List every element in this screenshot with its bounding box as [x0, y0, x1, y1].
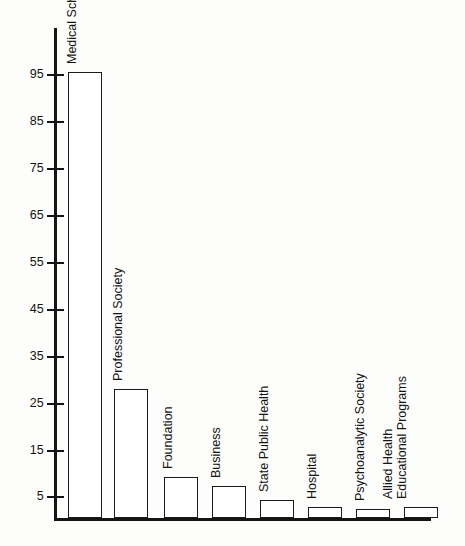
bar-group-hospital: Hospital: [308, 28, 342, 518]
plot-area: Medical School Professional Society Foun…: [54, 28, 431, 521]
bar-label-foundation: Foundation: [162, 406, 175, 469]
bar-label-psychoanalytic-society: Psychoanalytic Society: [354, 373, 367, 501]
bar-label-line-1: Allied Health: [382, 376, 396, 499]
bar-professional-society: [114, 389, 148, 518]
y-tick-label-85: 85: [16, 115, 44, 127]
y-tick-label-15-wrap: 15: [8, 444, 44, 456]
bar-business: [212, 486, 246, 518]
bar-group-medical-school: Medical School: [68, 28, 102, 518]
bar-hospital: [308, 507, 342, 519]
bar-psychoanalytic-society: [356, 509, 390, 518]
y-tick-label-95-wrap: 95: [8, 68, 44, 80]
y-tick-label-75: 75: [16, 162, 44, 174]
bar-label-professional-society: Professional Society: [112, 268, 125, 381]
y-tick-label-25: 25: [16, 397, 44, 409]
bar-chart: 95 85 75 65 55 45 35 25 15 5: [0, 0, 465, 546]
bar-group-business: Business: [212, 28, 246, 518]
bar-label-medical-school: Medical School: [66, 0, 79, 64]
y-tick-label-95: 95: [16, 68, 44, 80]
bar-allied-health-educational-programs: [404, 507, 438, 519]
y-tick-label-45: 45: [16, 303, 44, 315]
bar-state-public-health: [260, 500, 294, 518]
bar-medical-school: [68, 72, 102, 518]
y-tick-label-75-wrap: 75: [8, 162, 44, 174]
y-tick-label-25-wrap: 25: [8, 397, 44, 409]
y-tick-label-65-wrap: 65: [8, 209, 44, 221]
y-tick-label-85-wrap: 85: [8, 115, 44, 127]
y-tick-label-35: 35: [16, 350, 44, 362]
bar-group-state-public-health: State Public Health: [260, 28, 294, 518]
y-tick-label-45-wrap: 45: [8, 303, 44, 315]
bar-label-line-2: Educational Programs: [395, 376, 409, 499]
y-tick-label-15: 15: [16, 444, 44, 456]
y-tick-label-5-wrap: 5: [8, 490, 44, 502]
y-tick-label-55: 55: [16, 256, 44, 268]
bar-group-professional-society: Professional Society: [114, 28, 148, 518]
y-tick-label-65: 65: [16, 209, 44, 221]
y-tick-label-35-wrap: 35: [8, 350, 44, 362]
bar-label-allied-health-educational-programs: Allied Health Educational Programs: [382, 376, 409, 499]
bar-group-foundation: Foundation: [164, 28, 198, 518]
bar-group-allied-health-educational-programs: Allied Health Educational Programs: [404, 28, 438, 518]
bar-label-state-public-health: State Public Health: [258, 385, 271, 491]
bar-label-hospital: Hospital: [306, 453, 319, 498]
bar-foundation: [164, 477, 198, 518]
y-tick-label-5: 5: [16, 490, 44, 502]
bar-label-business: Business: [210, 427, 223, 478]
y-tick-label-55-wrap: 55: [8, 256, 44, 268]
